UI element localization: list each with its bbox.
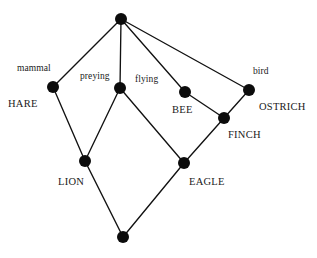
edge-top-preying: [120, 19, 121, 88]
object-label-lion: LION: [58, 177, 84, 188]
node-bottom[interactable]: [117, 231, 129, 243]
concept-lattice-diagram: mammalpreyingflyingbirdHAREBEEOSTRICHFIN…: [0, 0, 317, 258]
attribute-label-preying: preying: [80, 72, 110, 82]
edge-preying-lion: [85, 88, 120, 161]
attribute-label-flying: flying: [135, 75, 158, 85]
node-bee[interactable]: [179, 86, 191, 98]
edge-preying-eagle: [120, 88, 184, 163]
edge-finch-eagle: [184, 118, 224, 163]
edge-eagle-bottom: [123, 163, 184, 237]
node-ostrich[interactable]: [243, 84, 255, 96]
node-lion[interactable]: [79, 155, 91, 167]
lattice-graph-svg: [0, 0, 317, 258]
node-eagle[interactable]: [178, 157, 190, 169]
object-label-finch: FINCH: [228, 130, 261, 141]
edge-lion-bottom: [85, 161, 123, 237]
edge-hare-lion: [53, 87, 85, 161]
node-preying[interactable]: [114, 82, 126, 94]
object-label-hare: HARE: [8, 99, 38, 110]
node-top[interactable]: [115, 13, 127, 25]
object-label-bee: BEE: [172, 105, 193, 116]
attribute-label-bird: bird: [253, 67, 269, 77]
object-label-ostrich: OSTRICH: [259, 102, 306, 113]
object-label-eagle: EAGLE: [189, 177, 225, 188]
node-hare[interactable]: [47, 81, 59, 93]
attribute-label-mammal: mammal: [17, 64, 51, 74]
edge-layer: [53, 19, 249, 237]
node-finch[interactable]: [218, 112, 230, 124]
node-layer: [47, 13, 255, 243]
